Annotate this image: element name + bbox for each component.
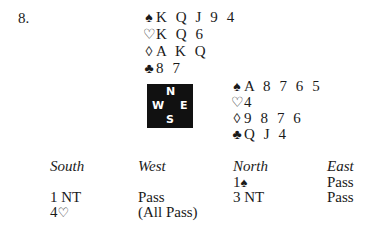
heart-icon: ♡ (58, 205, 70, 220)
spade-icon: ♠ (231, 78, 243, 95)
bid-level: 1 (233, 174, 241, 190)
auction-bid-east-2: Pass (327, 190, 354, 205)
compass-west-label: W (152, 100, 164, 111)
north-diamonds-cards: A K Q (156, 43, 208, 60)
compass-east-label: E (180, 100, 188, 111)
north-hearts-cards: K Q 6 (156, 26, 206, 43)
auction-bid-north-1: 1♠ (233, 175, 247, 190)
compass-diagram: N W E S (147, 84, 193, 128)
east-diamonds-cards: 9 8 7 6 (244, 110, 303, 127)
heart-icon: ♡ (231, 94, 243, 111)
auction-bid-west-1: Pass (138, 190, 165, 205)
auction-header-north: North (233, 159, 268, 174)
auction-bid-east-1: Pass (327, 175, 354, 190)
spade-icon: ♠ (241, 175, 248, 190)
compass-south-label: S (166, 114, 174, 125)
club-icon: ♣ (231, 126, 243, 143)
north-spades-cards: K Q J 9 4 (156, 9, 237, 26)
spade-icon: ♠ (143, 9, 155, 26)
north-hand: ♠ K Q J 9 4 ♡ K Q 6 ◊ A K Q ♣ 8 7 (143, 9, 263, 79)
auction-header-east: East (327, 159, 354, 174)
auction-header-south: South (50, 159, 84, 174)
east-hearts-cards: 4 (244, 94, 254, 111)
auction-bid-south-2: 4♡ (50, 205, 69, 220)
diamond-icon: ◊ (231, 110, 243, 127)
compass-north-label: N (166, 86, 175, 97)
heart-icon: ♡ (143, 26, 155, 43)
auction-bid-south-1: 1 NT (50, 190, 81, 205)
auction-header-west: West (138, 159, 166, 174)
auction-bid-north-2: 3 NT (233, 190, 264, 205)
north-clubs-cards: 8 7 (156, 60, 183, 77)
east-hand: ♠ A 8 7 6 5 ♡ 4 ◊ 9 8 7 6 ♣ Q J 4 (231, 78, 361, 148)
problem-number: 8. (18, 10, 29, 27)
auction-bid-west-2: (All Pass) (138, 205, 198, 220)
east-spades-cards: A 8 7 6 5 (244, 78, 322, 95)
bid-level: 4 (50, 204, 58, 220)
club-icon: ♣ (143, 60, 155, 77)
east-clubs-cards: Q J 4 (244, 126, 289, 143)
diamond-icon: ◊ (143, 43, 155, 60)
